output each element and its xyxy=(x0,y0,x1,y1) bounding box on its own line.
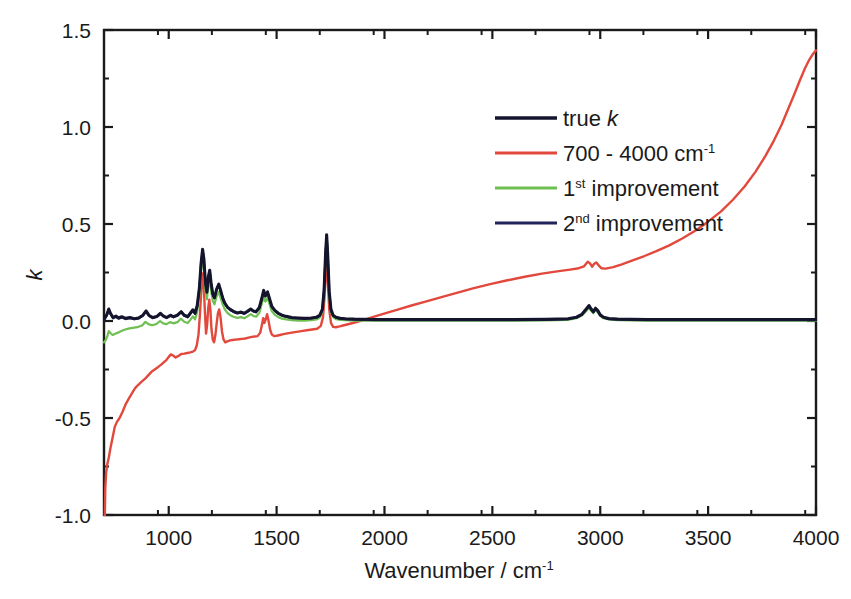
x-tick-label: 3500 xyxy=(685,526,732,549)
y-tick-label: -1.0 xyxy=(55,504,91,527)
x-tick-label: 3000 xyxy=(577,526,624,549)
chart-background xyxy=(0,0,851,599)
y-tick-label: 0.5 xyxy=(62,213,91,236)
y-tick-label: 1.0 xyxy=(62,116,91,139)
spectrum-chart: 1000150020002500300035004000-1.0-0.50.00… xyxy=(0,0,851,599)
x-axis-title: Wavenumber / cm-1 xyxy=(364,558,553,583)
svg-text:Wavenumber / cm-1: Wavenumber / cm-1 xyxy=(364,558,553,583)
y-tick-label: 0.0 xyxy=(62,310,91,333)
y-tick-label: 1.5 xyxy=(62,19,91,42)
x-tick-label: 2000 xyxy=(361,526,408,549)
y-axis-title: k xyxy=(22,269,47,281)
legend-label: true k xyxy=(563,106,619,131)
legend-label: 700 - 4000 cm-1 xyxy=(563,141,715,166)
svg-text:k: k xyxy=(22,269,47,281)
x-tick-label: 1500 xyxy=(253,526,300,549)
legend-label: 1st improvement xyxy=(563,176,719,201)
x-tick-label: 4000 xyxy=(793,526,840,549)
x-tick-label: 2500 xyxy=(469,526,516,549)
x-tick-label: 1000 xyxy=(145,526,192,549)
y-tick-label: -0.5 xyxy=(55,407,91,430)
